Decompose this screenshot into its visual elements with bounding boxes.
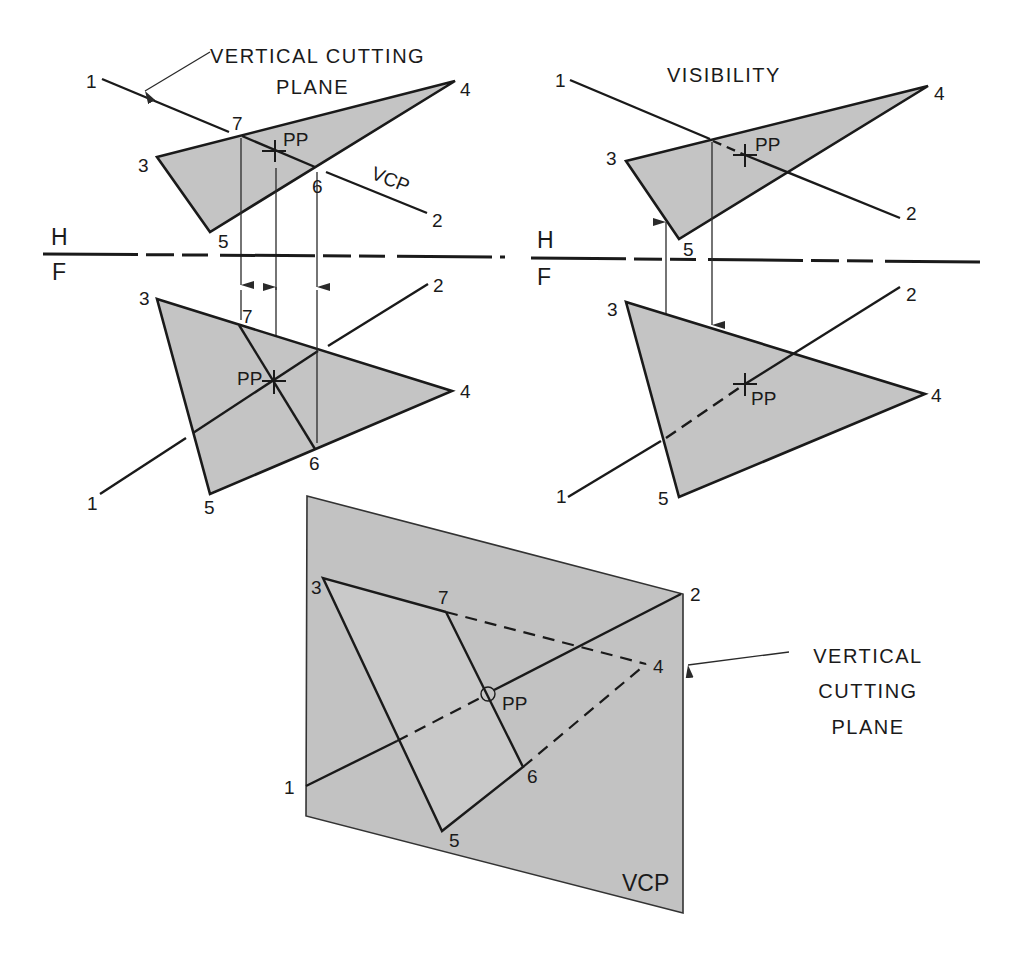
label-5: 5 <box>683 239 694 260</box>
line-1-2 <box>570 80 710 139</box>
label-f-left: F <box>52 259 66 285</box>
label-1: 1 <box>556 486 567 507</box>
label-4: 4 <box>460 79 471 100</box>
label-4: 4 <box>934 83 945 104</box>
plane-triangle <box>157 81 455 232</box>
label-6: 6 <box>312 176 323 197</box>
label-2: 2 <box>906 203 917 224</box>
label-2: 2 <box>432 210 443 231</box>
label-1: 1 <box>555 70 566 91</box>
folding-line-right: H F <box>531 227 983 290</box>
label-2: 2 <box>690 584 701 605</box>
vcp-plane <box>306 496 683 913</box>
label-5: 5 <box>658 488 669 509</box>
label-pp: PP <box>283 129 308 150</box>
label-vcp-plane: VCP <box>622 870 669 896</box>
view-top-left: VERTICAL CUTTING PLANE 1 4 7 PP 3 6 VCP … <box>86 45 471 380</box>
label-h-left: H <box>51 224 68 250</box>
label-6: 6 <box>527 766 538 787</box>
label-pp: PP <box>502 693 527 714</box>
label-3: 3 <box>311 577 322 598</box>
caption-plane: PLANE <box>276 76 349 98</box>
caption-arrow-right <box>688 652 789 665</box>
label-h-right: H <box>537 227 554 253</box>
caption-vertical-cutting: VERTICAL CUTTING <box>210 45 425 67</box>
line-1-2 <box>102 79 229 132</box>
caption-arrow <box>145 52 210 91</box>
view-bottom-left: 3 7 2 PP 4 6 1 5 <box>87 275 471 518</box>
label-3: 3 <box>138 155 149 176</box>
line-1-2 <box>568 441 661 497</box>
caption-right: VERTICAL CUTTING PLANE <box>688 645 923 738</box>
label-7: 7 <box>232 113 243 134</box>
caption-visibility: VISIBILITY <box>667 64 781 86</box>
label-5: 5 <box>204 497 215 518</box>
caption-vertical: VERTICAL <box>813 645 922 667</box>
plane-triangle <box>626 86 928 239</box>
descriptive-geometry-diagram: VERTICAL CUTTING PLANE 1 4 7 PP 3 6 VCP … <box>0 0 1009 961</box>
label-5: 5 <box>449 830 460 851</box>
caption-cutting: CUTTING <box>818 680 917 702</box>
label-2: 2 <box>433 275 444 296</box>
label-4: 4 <box>653 656 664 677</box>
label-f-right: F <box>537 264 551 290</box>
line-1-2 <box>100 438 186 494</box>
label-6: 6 <box>309 453 320 474</box>
label-4: 4 <box>460 381 471 402</box>
label-3: 3 <box>606 148 617 169</box>
label-2: 2 <box>906 284 917 305</box>
label-pp: PP <box>237 368 262 389</box>
view-pictorial-vcp: 3 7 2 4 PP 6 1 5 VCP <box>284 496 701 913</box>
label-7: 7 <box>242 306 253 327</box>
label-3: 3 <box>607 299 618 320</box>
label-1: 1 <box>284 777 295 798</box>
view-bottom-right: 3 2 PP 4 1 5 <box>556 284 942 509</box>
label-4: 4 <box>931 385 942 406</box>
label-3: 3 <box>139 288 150 309</box>
label-5: 5 <box>218 231 229 252</box>
label-pp: PP <box>755 134 780 155</box>
label-1: 1 <box>86 71 97 92</box>
label-7: 7 <box>438 587 449 608</box>
label-1: 1 <box>87 493 98 514</box>
caption-plane: PLANE <box>831 716 904 738</box>
label-pp: PP <box>751 388 776 409</box>
